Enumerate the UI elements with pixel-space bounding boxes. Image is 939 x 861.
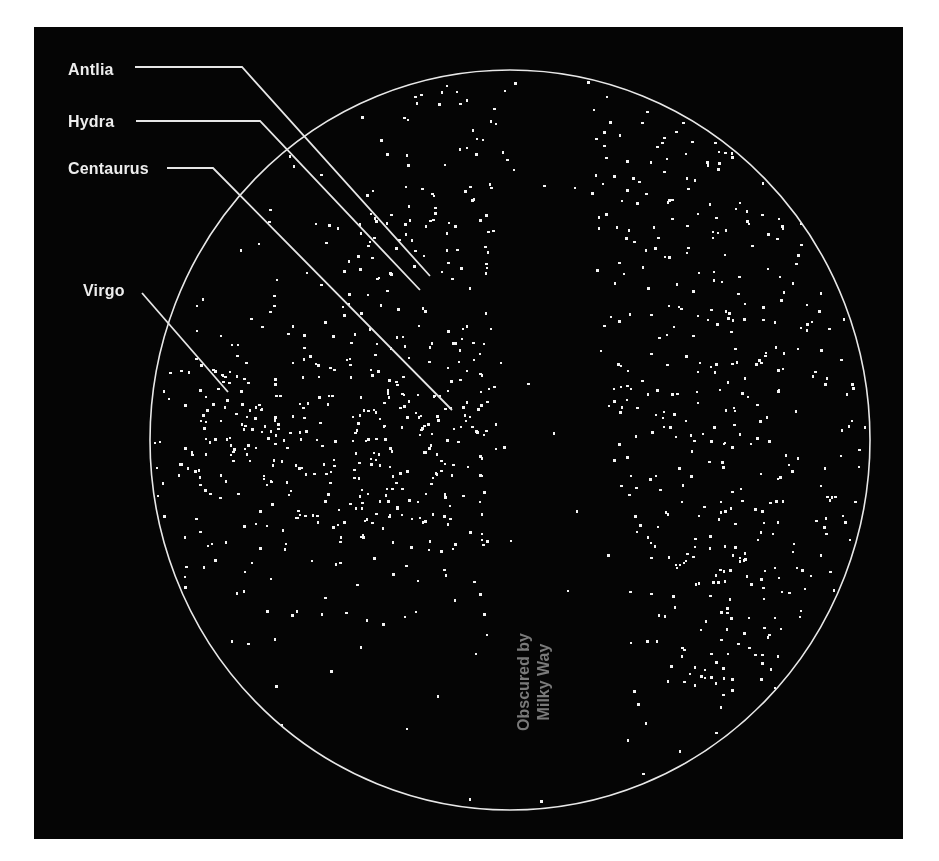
label-antlia: Antlia — [68, 62, 114, 78]
label-virgo: Virgo — [83, 283, 125, 299]
annotation-line-2: Milky Way — [534, 627, 554, 737]
galaxy-distribution-map — [0, 0, 939, 861]
label-hydra: Hydra — [68, 114, 114, 130]
annotation-line-1: Obscured by — [514, 627, 534, 737]
milky-way-annotation: Obscured by Milky Way — [514, 627, 554, 737]
label-centaurus: Centaurus — [68, 161, 149, 177]
